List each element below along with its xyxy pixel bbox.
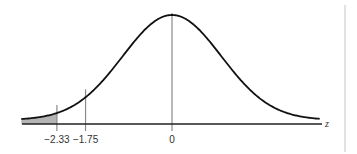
normal-curve	[21, 15, 319, 119]
tick-label-neg-2-33: −2.33	[44, 134, 70, 145]
z-axis-label: z	[324, 118, 329, 129]
tick-label-neg-1-75: −1.75	[73, 134, 99, 145]
tick-label-zero: 0	[169, 134, 175, 145]
normal-curve-chart: z −2.33 −1.75 0	[0, 0, 357, 154]
